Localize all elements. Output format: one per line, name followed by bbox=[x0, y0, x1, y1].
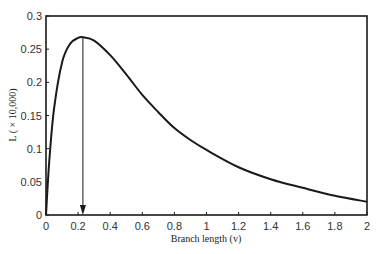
x-tick-label: 0 bbox=[43, 220, 49, 232]
x-tick-label: 1 bbox=[203, 220, 209, 232]
x-tick-label: 0.2 bbox=[70, 220, 85, 232]
y-tick-label: 0.3 bbox=[27, 10, 42, 22]
x-tick-label: 0.8 bbox=[167, 220, 182, 232]
x-tick-label: 1.8 bbox=[327, 220, 342, 232]
y-axis-label: L ( × 10,000) bbox=[7, 88, 19, 141]
likelihood-curve bbox=[46, 37, 367, 215]
y-tick-label: 0 bbox=[36, 209, 42, 221]
y-tick-label: 0.15 bbox=[21, 110, 42, 122]
x-tick-label: 0.6 bbox=[135, 220, 150, 232]
plot-border bbox=[46, 16, 367, 215]
y-tick-label: 0.2 bbox=[27, 76, 42, 88]
y-tick-label: 0.05 bbox=[21, 176, 42, 188]
y-tick-label: 0.25 bbox=[21, 43, 42, 55]
x-tick-label: 1.4 bbox=[263, 220, 278, 232]
x-axis-label: Branch length (v) bbox=[171, 233, 242, 245]
plot-frame bbox=[46, 16, 367, 215]
x-tick-label: 1.6 bbox=[295, 220, 310, 232]
mle-arrow bbox=[80, 37, 86, 215]
x-tick-label: 2 bbox=[364, 220, 370, 232]
x-tick-label: 0.4 bbox=[103, 220, 118, 232]
y-axis-ticks: 00.050.10.150.20.250.3 bbox=[21, 10, 49, 221]
arrow-head-icon bbox=[80, 205, 86, 215]
y-tick-label: 0.1 bbox=[27, 143, 42, 155]
likelihood-chart: 00.050.10.150.20.250.3 00.20.40.60.811.2… bbox=[0, 0, 378, 254]
x-tick-label: 1.2 bbox=[231, 220, 246, 232]
